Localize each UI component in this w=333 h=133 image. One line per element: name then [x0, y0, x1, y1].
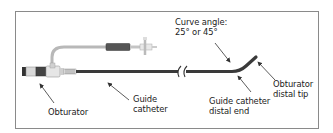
label-odt-line2: distal tip [273, 89, 313, 99]
label-gde-line1: Guide catheter [209, 96, 270, 106]
obturator-hub [22, 63, 64, 77]
label-obturator: Obturator [48, 107, 88, 117]
label-guide-line1: Guide [133, 94, 168, 104]
label-odt-line1: Obturator [273, 79, 313, 89]
stopcock-valve [140, 37, 157, 55]
label-curve-angle: Curve angle: 25° or 45° [175, 17, 227, 37]
strain-relief [64, 69, 76, 74]
side-extension-tube [52, 44, 140, 66]
label-curve-line1: Curve angle: [175, 17, 227, 27]
label-guide-catheter-distal-end: Guide catheter distal end [209, 96, 270, 116]
label-curve-line2: 25° or 45° [175, 27, 227, 37]
catheter-shaft [76, 57, 256, 72]
label-gde-line2: distal end [209, 106, 270, 116]
label-guide-line2: catheter [133, 104, 168, 114]
shaft-break-mark [178, 65, 187, 78]
label-obturator-text: Obturator [48, 107, 88, 117]
label-guide-catheter: Guide catheter [133, 94, 168, 114]
label-obturator-distal-tip: Obturator distal tip [273, 79, 313, 99]
